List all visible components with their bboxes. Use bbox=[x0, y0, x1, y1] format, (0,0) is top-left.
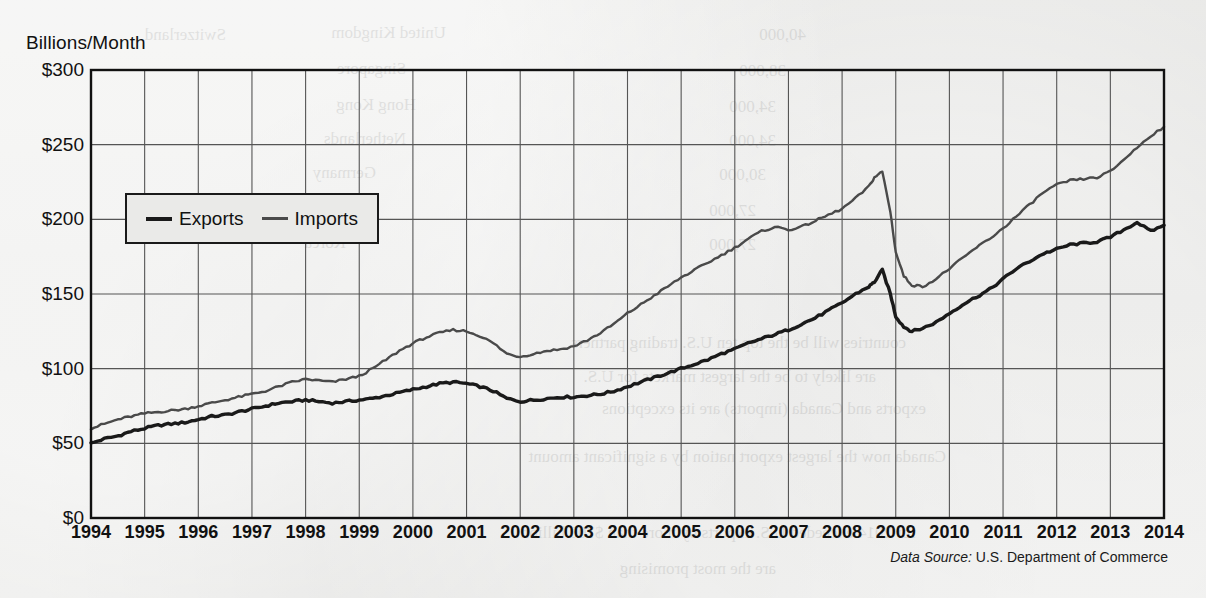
legend-item-exports: Exports bbox=[146, 208, 243, 230]
x-tick-label: 2014 bbox=[1144, 522, 1184, 543]
exports-line-swatch-icon bbox=[146, 217, 172, 221]
x-tick-label: 2001 bbox=[447, 522, 487, 543]
x-tick-label: 1995 bbox=[125, 522, 165, 543]
x-tick-label: 2003 bbox=[554, 522, 594, 543]
y-tick-label: $300 bbox=[6, 59, 84, 81]
x-tick-label: 2005 bbox=[661, 522, 701, 543]
y-tick-label: $100 bbox=[6, 358, 84, 380]
x-tick-label: 1997 bbox=[232, 522, 272, 543]
x-tick-label: 2004 bbox=[607, 522, 647, 543]
x-tick-label: 2006 bbox=[715, 522, 755, 543]
x-tick-label: 2007 bbox=[768, 522, 808, 543]
imports-line-swatch-icon bbox=[262, 217, 288, 220]
legend-label-exports: Exports bbox=[179, 208, 243, 230]
y-tick-label: $250 bbox=[6, 134, 84, 156]
chart-legend: Exports Imports bbox=[125, 193, 379, 244]
data-source-label: Data Source: bbox=[890, 549, 972, 565]
x-tick-label: 1999 bbox=[339, 522, 379, 543]
x-tick-label: 1998 bbox=[286, 522, 326, 543]
x-tick-label: 1996 bbox=[178, 522, 218, 543]
data-source-value: U.S. Department of Commerce bbox=[976, 549, 1168, 565]
x-tick-label: 2002 bbox=[500, 522, 540, 543]
plot-area: $300$250$200$150$100$50$0 19941995199619… bbox=[0, 0, 1206, 598]
legend-label-imports: Imports bbox=[295, 208, 358, 230]
x-tick-label: 1994 bbox=[71, 522, 111, 543]
x-tick-label: 2000 bbox=[393, 522, 433, 543]
x-tick-label: 2011 bbox=[984, 522, 1023, 543]
data-source-note: Data Source: U.S. Department of Commerce bbox=[890, 549, 1168, 565]
chart-page: United Kingdom40,000SwitzerlandSingapore… bbox=[0, 0, 1206, 598]
x-tick-label: 2008 bbox=[822, 522, 862, 543]
line-chart-svg bbox=[0, 0, 1206, 598]
y-tick-label: $50 bbox=[6, 432, 84, 454]
x-tick-label: 2009 bbox=[876, 522, 916, 543]
x-tick-label: 2012 bbox=[1037, 522, 1077, 543]
x-tick-label: 2013 bbox=[1090, 522, 1130, 543]
y-tick-label: $200 bbox=[6, 208, 84, 230]
x-tick-label: 2010 bbox=[929, 522, 969, 543]
y-tick-label: $150 bbox=[6, 283, 84, 305]
legend-item-imports: Imports bbox=[262, 208, 358, 230]
